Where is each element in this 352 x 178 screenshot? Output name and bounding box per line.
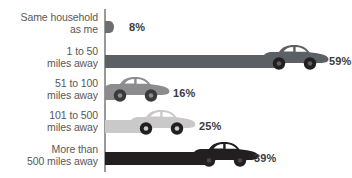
car-icon [103,75,171,107]
chart-row: 51 to 100 miles away 16% [0,73,352,107]
bar [105,21,114,33]
chart-row: More than 500 miles away 39% [0,139,352,173]
category-label-line1: Same household [21,11,98,23]
value-label: 8% [129,21,145,33]
category-label-line2: miles away [0,89,98,101]
category-label-line1: 51 to 100 [55,77,98,89]
category-label: 1 to 50 miles away [0,45,98,70]
car-icon [129,108,197,140]
value-label: 25% [199,120,221,132]
category-label-line2: as me [0,23,98,35]
car-icon [192,140,260,172]
category-label-line1: 101 to 500 [49,109,98,121]
category-label: Same household as me [0,11,98,36]
chart-row: 101 to 500 miles away 25% [0,105,352,139]
category-label-line2: miles away [0,57,98,69]
value-label: 59% [329,55,351,67]
category-label-line2: miles away [0,121,98,133]
category-label-line2: 500 miles away [0,155,98,167]
category-label: 101 to 500 miles away [0,109,98,134]
car-icon [262,43,330,75]
value-label: 39% [254,152,276,164]
category-label: More than 500 miles away [0,143,98,168]
category-label-line1: More than [52,143,98,155]
chart-row: 1 to 50 miles away 59% [0,41,352,75]
bar [105,55,277,68]
bar-chart: Same household as me 8% 1 to 50 miles aw… [0,0,352,178]
value-label: 16% [173,87,195,99]
category-label: 51 to 100 miles away [0,77,98,102]
chart-row: Same household as me 8% [0,8,352,42]
category-label-line1: 1 to 50 [67,45,98,57]
